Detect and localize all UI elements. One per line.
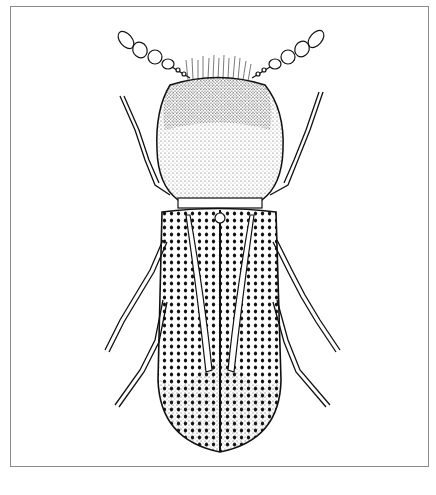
prothorax-collar [178, 198, 262, 208]
beetle-illustration [0, 0, 436, 495]
left-antenna [115, 28, 190, 78]
scutellum [215, 213, 225, 223]
right-antenna [252, 27, 327, 78]
pronotum-tubercles [163, 78, 271, 131]
